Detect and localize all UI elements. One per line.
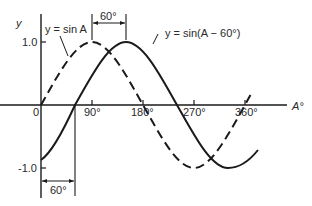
leader-sin-a-minus-60 — [153, 34, 158, 44]
arrowhead-icon — [42, 179, 47, 183]
x-tick-label-90: 90° — [84, 106, 101, 118]
phase-label-bottom: 60° — [50, 184, 67, 196]
x-tick-label-0: 0 — [33, 106, 39, 118]
x-tick-label-360: 360° — [235, 106, 258, 118]
y-axis-label: y — [15, 17, 23, 29]
label-sin-a: y = sin A — [45, 23, 88, 35]
phase-label-top: 60° — [100, 10, 117, 22]
y-tick-label-1: 1.0 — [22, 36, 37, 48]
x-tick-label-180: 180° — [131, 106, 154, 118]
sine-phase-diagram: 60° 60° y A° 1.0 -1.0 0 90° 180° 270° 36… — [0, 0, 312, 206]
arrowhead-icon — [69, 179, 74, 183]
leader-sin-a — [60, 36, 68, 56]
x-tick-label-270: 270° — [183, 106, 206, 118]
arrowhead-icon — [93, 21, 98, 25]
arrowhead-icon — [120, 21, 125, 25]
label-sin-a-minus-60: y = sin(A − 60°) — [165, 27, 240, 39]
y-tick-label-neg1: -1.0 — [18, 162, 37, 174]
x-axis-label: A° — [291, 100, 304, 112]
